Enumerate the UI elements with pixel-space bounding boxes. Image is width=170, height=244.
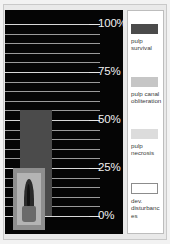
tooth-crown-icon — [22, 206, 36, 222]
gridline — [5, 53, 100, 54]
legend-swatch-3 — [131, 183, 158, 194]
legend-label: dev. disturbances — [131, 197, 162, 219]
plot-area: 100%75%50%25%0% — [5, 10, 123, 234]
axis-tick-label-50: 50% — [98, 114, 120, 126]
chart-screenshot: 100%75%50%25%0% pulp survivalpulp canal … — [0, 0, 170, 244]
legend-label: pulp canal obliteration — [131, 90, 162, 105]
gridline — [5, 82, 100, 83]
gridline — [5, 72, 100, 73]
gridline — [5, 34, 100, 35]
legend-item[interactable]: pulp necrosis — [131, 129, 162, 157]
radiograph-image — [17, 173, 41, 225]
legend-swatch-1 — [131, 77, 158, 87]
legend-label: pulp necrosis — [131, 142, 162, 157]
legend-item[interactable]: pulp canal obliteration — [131, 77, 162, 105]
axis-tick-label-100: 100% — [98, 18, 123, 30]
gridline — [5, 91, 100, 92]
legend-label: pulp survival — [131, 37, 162, 52]
tooth-radiograph-thumbnail — [13, 168, 45, 230]
legend-swatch-2 — [131, 129, 158, 139]
axis-tick-label-75: 75% — [98, 66, 120, 78]
gridline — [5, 101, 100, 102]
gridline — [5, 43, 100, 44]
axis-tick-label-0: 0% — [98, 210, 114, 222]
tooth-canal-icon — [27, 184, 30, 206]
legend-swatch-0 — [131, 24, 158, 34]
gridline — [5, 62, 100, 63]
legend-panel: pulp survivalpulp canal obliterationpulp… — [127, 10, 164, 234]
legend-item[interactable]: pulp survival — [131, 24, 162, 52]
legend-item[interactable]: dev. disturbances — [131, 183, 162, 219]
gridline — [5, 24, 100, 25]
axis-tick-label-25: 25% — [98, 162, 120, 174]
